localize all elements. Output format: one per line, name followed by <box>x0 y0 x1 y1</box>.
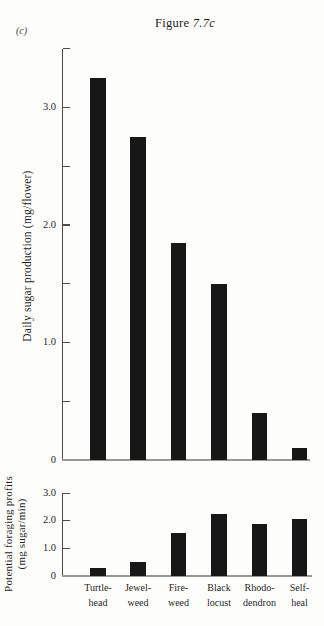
figure-title-number: 7.7c <box>193 16 215 30</box>
daily-sugar-production-tick-1.5 <box>63 283 70 284</box>
figure-panel: (c) Figure 7.7c Daily sugar production (… <box>0 0 324 626</box>
daily-sugar-production-tick-label-1.0: 1.0 <box>24 336 56 347</box>
top-chart-y-axis-label: Daily sugar production (mg/flower) <box>21 170 33 341</box>
potential-foraging-profits-tick-1 <box>63 548 70 549</box>
daily-sugar-production-bar-fire-weed <box>171 243 187 460</box>
daily-sugar-production-tick-label-2.0: 2.0 <box>24 219 56 230</box>
potential-foraging-profits-tick-3 <box>63 493 70 494</box>
potential-foraging-profits-bar-self-heal <box>292 519 308 576</box>
bottom-chart-y-axis-label-line1: Potential foraging profits <box>2 476 15 592</box>
potential-foraging-profits-tick-label-0: 0 <box>24 570 56 581</box>
potential-foraging-profits-bar-rhododendron <box>252 524 268 576</box>
daily-sugar-production-bar-rhododendron <box>252 413 268 460</box>
daily-sugar-production-bar-turtle-head <box>90 78 106 460</box>
daily-sugar-production-y-axis <box>62 49 63 460</box>
potential-foraging-profits-tick-label-1.0: 1.0 <box>24 542 56 553</box>
potential-foraging-profits-tick-label-2.0: 2.0 <box>24 514 56 525</box>
daily-sugar-production-bar-self-heal <box>292 448 308 460</box>
potential-foraging-profits-bar-fire-weed <box>171 533 187 576</box>
daily-sugar-production-bar-jewel-weed <box>130 137 146 460</box>
category-label-line2: heal <box>276 596 324 611</box>
daily-sugar-production-tick-3 <box>63 107 70 108</box>
potential-foraging-profits-bar-turtle-head <box>90 568 106 576</box>
daily-sugar-production-tick-3.5 <box>63 48 70 49</box>
daily-sugar-production-tick-2 <box>63 224 70 225</box>
daily-sugar-production-tick-label-3.0: 3.0 <box>24 101 56 112</box>
potential-foraging-profits-tick-label-3.0: 3.0 <box>24 487 56 498</box>
daily-sugar-production-tick-0.5 <box>63 401 70 402</box>
potential-foraging-profits-tick-2 <box>63 520 70 521</box>
daily-sugar-production-tick-label-0: 0 <box>24 454 56 465</box>
potential-foraging-profits-y-axis <box>62 493 63 576</box>
potential-foraging-profits-bar-black-locust <box>211 514 227 576</box>
potential-foraging-profits-bar-jewel-weed <box>130 562 146 576</box>
category-label-line1: Self- <box>276 581 324 596</box>
category-label-selfheal: Self-heal <box>276 581 324 610</box>
daily-sugar-production-tick-2.5 <box>63 166 70 167</box>
daily-sugar-production-tick-1 <box>63 342 70 343</box>
figure-title: Figure 7.7c <box>0 16 324 31</box>
daily-sugar-production-bar-black-locust <box>211 284 227 460</box>
figure-title-prefix: Figure <box>155 16 193 30</box>
